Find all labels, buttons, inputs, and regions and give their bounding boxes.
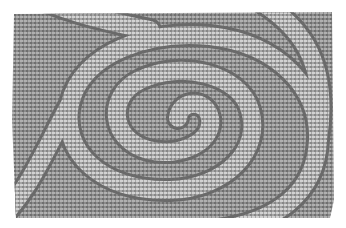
dot-field [0, 0, 346, 228]
spiral-illusion-image [0, 0, 346, 228]
